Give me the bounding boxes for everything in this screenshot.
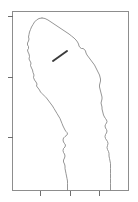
coastline-west xyxy=(28,18,68,190)
figure-container xyxy=(0,0,138,202)
x-axis-tick-group xyxy=(41,191,100,196)
outline-map-plot xyxy=(0,0,138,202)
coastline-east xyxy=(42,18,111,190)
marker-segment xyxy=(53,51,67,61)
annotation-group xyxy=(53,51,67,61)
coastline-series-group xyxy=(28,18,111,190)
y-axis-tick-group xyxy=(8,17,13,138)
plot-frame-box xyxy=(13,12,129,191)
